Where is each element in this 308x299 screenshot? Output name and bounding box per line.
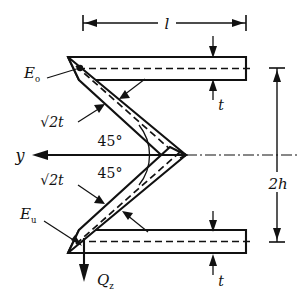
upper-sqrt2t-leader-line	[78, 108, 100, 122]
label-web-thickness-upper: √2t	[40, 114, 64, 130]
top-flange	[68, 57, 252, 80]
label-length-l: l	[165, 15, 170, 33]
web-thickness-upper-leader	[78, 104, 105, 122]
upper-inner-web-leader	[119, 79, 145, 99]
label-thickness-bottom: t	[218, 273, 224, 289]
label-point-eo-subscript: o	[35, 74, 40, 84]
shear-force-arrowhead	[79, 264, 89, 282]
label-point-eo-base: E	[23, 64, 35, 82]
cross-section-diagram: l 2h t t √2t √2t 45° 45° y Qz Eo Eu	[0, 0, 308, 299]
label-axis-y: y	[14, 146, 25, 165]
web-thickness-lower-leader	[78, 185, 105, 204]
upper-sqrt2t-arrowhead	[94, 104, 105, 113]
label-point-eu-base: E	[19, 205, 31, 223]
label-angle-lower: 45°	[98, 165, 123, 181]
bottom-flange	[68, 230, 252, 253]
dimension-l-arrow-left	[85, 19, 97, 27]
point-eo-leader	[47, 69, 78, 79]
y-axis-arrowhead	[32, 150, 48, 160]
lower-inner-web-leader	[122, 211, 148, 232]
label-shear-force-subscript: z	[109, 281, 114, 291]
dimension-l-arrow-right	[232, 19, 244, 27]
lower-sqrt2t-leader-line	[78, 185, 100, 200]
label-point-eu: Eu	[19, 205, 37, 225]
dimension-2h-arrow-top	[273, 70, 281, 82]
thickness-bottom-lower-arrowhead	[209, 254, 217, 266]
label-angle-upper: 45°	[98, 133, 123, 149]
label-thickness-top: t	[218, 97, 224, 113]
label-height-2h: 2h	[267, 175, 287, 193]
label-shear-force-base: Q	[97, 271, 109, 289]
label-point-eu-subscript: u	[31, 215, 37, 225]
label-shear-force: Qz	[97, 271, 114, 291]
label-point-eo: Eo	[23, 64, 40, 84]
label-web-thickness-lower: √2t	[40, 172, 64, 188]
upper-inner-leader-line	[124, 79, 145, 95]
figure-container: l 2h t t √2t √2t 45° 45° y Qz Eo Eu	[0, 0, 308, 299]
dimension-2h-arrow-bottom	[273, 228, 281, 240]
